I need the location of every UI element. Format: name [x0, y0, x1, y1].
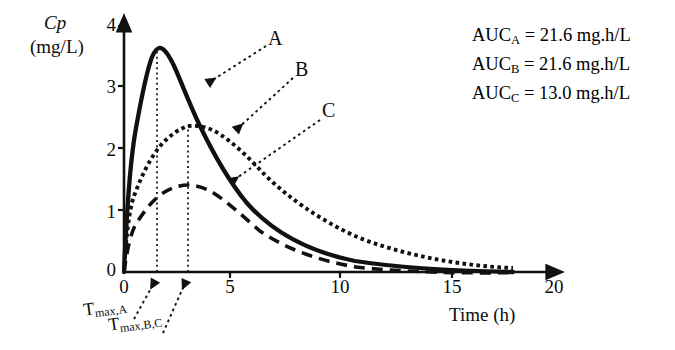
leader-c [231, 120, 320, 182]
y-axis-title-main: Cp [44, 12, 66, 34]
leader-b [236, 78, 293, 130]
curve-label-c: C [322, 99, 335, 122]
leader-a [208, 46, 266, 83]
curve-label-b: B [295, 58, 308, 81]
curve-a [124, 48, 513, 272]
figure-canvas: Cp (mg/L) 4 3 2 1 0 0 5 10 15 20 Time (h… [0, 0, 675, 350]
auc-row-a: AUCA = 21.6 mg.h/L [472, 22, 631, 51]
auc-a-value: = 21.6 mg.h/L [520, 25, 631, 45]
x-tick-label-10: 10 [326, 276, 354, 298]
auc-row-c: AUCC = 13.0 mg.h/L [472, 80, 631, 109]
y-tick-label-4: 4 [98, 14, 116, 36]
auc-annotation-block: AUCA = 21.6 mg.h/L AUCB = 21.6 mg.h/L AU… [472, 22, 631, 109]
auc-b-prefix: AUC [472, 54, 511, 74]
y-tick-label-1: 1 [98, 201, 116, 223]
auc-c-prefix: AUC [472, 83, 511, 103]
auc-row-b: AUCB = 21.6 mg.h/L [472, 51, 631, 80]
auc-c-value: = 13.0 mg.h/L [519, 83, 630, 103]
curve-c [124, 185, 513, 273]
auc-c-subscript: C [511, 91, 519, 105]
leader-tmax-bc [163, 281, 186, 333]
auc-b-value: = 21.6 mg.h/L [519, 54, 630, 74]
x-axis-title: Time (h) [449, 304, 515, 326]
auc-a-prefix: AUC [472, 25, 511, 45]
auc-b-subscript: B [511, 62, 519, 76]
auc-a-subscript: A [511, 33, 520, 47]
y-axis-title-unit: (mg/L) [30, 36, 84, 58]
x-tick-label-15: 15 [438, 276, 466, 298]
y-tick-label-3: 3 [98, 76, 116, 98]
x-tick-label-20: 20 [540, 276, 568, 298]
y-tick-label-2: 2 [98, 139, 116, 161]
x-tick-label-5: 5 [220, 276, 240, 298]
curve-label-a: A [268, 27, 282, 50]
